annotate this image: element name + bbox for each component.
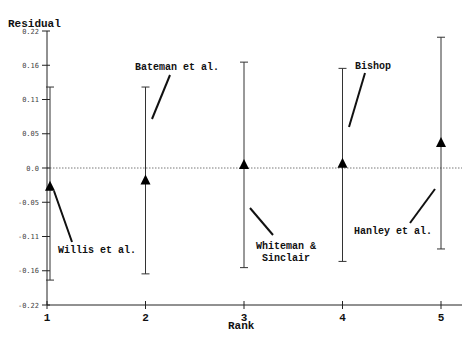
y-tick-label: 0.0	[26, 165, 39, 173]
triangle-marker-icon	[239, 159, 249, 169]
data-point-group	[436, 37, 446, 249]
y-tick-label: -0.05	[18, 199, 39, 207]
x-axis-label: Rank	[228, 320, 255, 332]
annotation-willis: Willis et al.	[58, 245, 136, 256]
y-tick-label: 0.11	[22, 96, 39, 104]
y-tick-label: -0.11	[18, 233, 39, 241]
data-point-group	[239, 62, 249, 267]
x-tick-label: 5	[438, 312, 445, 324]
x-tick-label: 1	[44, 312, 51, 324]
x-tick-label: 2	[142, 312, 149, 324]
data-point-group	[338, 68, 348, 261]
annotation-leader-bateman	[152, 75, 170, 119]
annotation-leader-willis	[54, 191, 72, 242]
error-bars	[45, 37, 446, 280]
y-ticks: 0.220.160.110.050.0-0.05-0.11-0.16-0.22	[18, 28, 50, 310]
annotation-hanley: Hanley et al.	[354, 226, 432, 237]
annotation-bateman: Bateman et al.	[135, 62, 219, 73]
y-axis-label: Residual	[8, 18, 61, 30]
annotation-leader-hanley	[410, 189, 435, 223]
y-tick-label: -0.22	[18, 302, 39, 310]
triangle-marker-icon	[338, 158, 348, 168]
annotation-leader-whiteman	[250, 208, 273, 235]
x-tick-label: 4	[339, 312, 346, 324]
triangle-marker-icon	[141, 174, 151, 184]
data-point-group	[141, 87, 151, 274]
y-tick-label: 0.16	[22, 62, 39, 70]
annotation-leader-bishop	[349, 73, 365, 127]
axes	[47, 31, 462, 305]
annotation-bishop: Bishop	[355, 61, 391, 72]
y-tick-label: 0.05	[22, 130, 39, 138]
annotation-whiteman-line1: Whiteman &	[256, 241, 316, 252]
residual-chart: 0.220.160.110.050.0-0.05-0.11-0.16-0.22 …	[0, 0, 464, 344]
annotation-whiteman-line2: Sinclair	[262, 253, 310, 264]
triangle-marker-icon	[436, 137, 446, 147]
y-tick-label: -0.16	[18, 267, 39, 275]
